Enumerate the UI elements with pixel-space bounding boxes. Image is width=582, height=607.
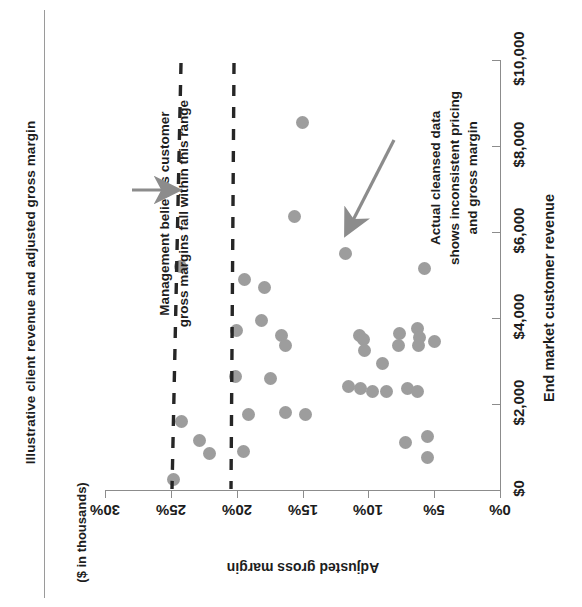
revenue-tick-label: $10,000 [510, 19, 527, 99]
scatter-point [392, 339, 405, 352]
revenue-tick [492, 318, 501, 319]
scatter-point [339, 247, 352, 260]
scatter-point [175, 415, 188, 428]
margin-tick-label: 30% [80, 502, 130, 519]
scatter-point [255, 314, 268, 327]
scatter-point [230, 324, 243, 337]
scatter-point [393, 327, 406, 340]
scatter-point [399, 436, 412, 449]
scatter-point [376, 357, 389, 370]
revenue-tick-label: $8,000 [510, 105, 527, 185]
annotation-actual-data: Actual cleansed data shows inconsistent … [427, 53, 483, 303]
revenue-tick [492, 60, 501, 61]
page-title: Illustrative client revenue and adjusted… [23, 33, 38, 553]
scatter-point [288, 210, 301, 223]
revenue-tick [492, 490, 501, 491]
revenue-tick-label: $6,000 [510, 191, 527, 271]
revenue-tick-label: $0 [510, 449, 527, 529]
margin-tick [171, 490, 172, 498]
revenue-tick [492, 146, 501, 147]
scatter-point [428, 335, 441, 348]
scatter-point [412, 339, 425, 352]
title-divider [44, 10, 45, 598]
scatter-point [421, 451, 434, 464]
chart-canvas: Illustrative client revenue and adjusted… [0, 0, 582, 607]
units-caption: ($ in thousands) [74, 468, 89, 598]
margin-tick-label: 15% [278, 502, 328, 519]
margin-tick [368, 490, 369, 498]
margin-tick [500, 490, 501, 498]
annotation-management-range: Management believes customer gross margi… [156, 69, 193, 359]
scatter-point [237, 445, 250, 458]
scatter-point [411, 385, 424, 398]
scatter-point [358, 344, 371, 357]
scatter-point [279, 339, 292, 352]
margin-tick-label: 25% [146, 502, 196, 519]
scatter-point [299, 408, 312, 421]
scatter-point [229, 370, 242, 383]
scatter-point [366, 385, 379, 398]
margin-tick [303, 490, 304, 498]
margin-tick-label: 20% [212, 502, 262, 519]
scatter-point [193, 434, 206, 447]
margin-tick-label: 10% [343, 502, 393, 519]
margin-axis-label: Adjusted gross margin [153, 560, 453, 576]
scatter-point [203, 447, 216, 460]
margin-tick [434, 490, 435, 498]
revenue-axis-line [500, 60, 501, 491]
scatter-point [279, 406, 292, 419]
revenue-tick [492, 232, 501, 233]
margin-tick-label: 5% [409, 502, 459, 519]
scatter-point [258, 281, 271, 294]
scatter-point [242, 408, 255, 421]
margin-tick [237, 490, 238, 498]
scatter-point [167, 473, 180, 486]
revenue-tick-label: $2,000 [510, 363, 527, 443]
scatter-point [264, 372, 277, 385]
revenue-tick [492, 404, 501, 405]
scatter-point [380, 385, 393, 398]
scatter-point [296, 116, 309, 129]
revenue-axis-label: End market customer revenue [541, 173, 557, 423]
margin-tick [105, 490, 106, 498]
revenue-tick-label: $4,000 [510, 277, 527, 357]
scatter-point [354, 382, 367, 395]
scatter-point [238, 273, 251, 286]
scatter-point [421, 430, 434, 443]
